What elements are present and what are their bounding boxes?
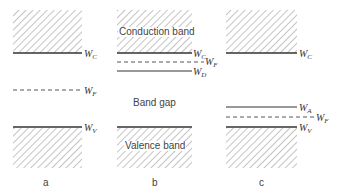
valence-band-label: Valence band (124, 141, 186, 151)
conduction-band-hatch (13, 10, 82, 53)
wv-label: WV (299, 123, 312, 135)
wf-label: WF (316, 113, 329, 125)
wf-label: WF (84, 86, 97, 98)
panel-caption-b: b (152, 178, 158, 188)
panel-caption-c: c (259, 178, 264, 188)
band-gap-label: Band gap (132, 98, 177, 108)
wc-label: WC (299, 49, 312, 61)
wc-label: WC (84, 49, 97, 61)
panel-a (13, 10, 82, 168)
wd-label: WD (193, 67, 206, 79)
valence-band-hatch (226, 128, 297, 168)
valence-band-hatch (13, 128, 82, 168)
wv-label: WV (84, 123, 97, 135)
conduction-band-label: Conduction band (118, 27, 196, 37)
panel-c (226, 10, 315, 168)
conduction-band-hatch (226, 10, 297, 53)
panel-caption-a: a (43, 178, 49, 188)
wa-label: WA (299, 103, 312, 115)
wf-label: WF (205, 57, 218, 69)
